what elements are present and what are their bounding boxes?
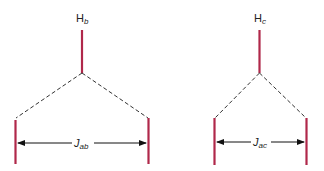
hb-label: Hb xyxy=(76,12,89,26)
jac-label: Jac xyxy=(252,136,267,150)
hc-split-dashed-left xyxy=(215,73,260,118)
hc-splitting-tree: Hc Jac xyxy=(215,12,307,165)
splitting-diagram: Hb Jab Hc Jac xyxy=(0,0,324,171)
hc-split-dashed-right xyxy=(260,73,307,118)
hb-splitting-tree: Hb Jab xyxy=(16,12,149,164)
jab-label: Jab xyxy=(73,137,89,151)
hc-label: Hc xyxy=(254,12,266,26)
hb-split-dashed-right xyxy=(82,73,148,118)
hb-split-dashed-left xyxy=(16,73,82,118)
